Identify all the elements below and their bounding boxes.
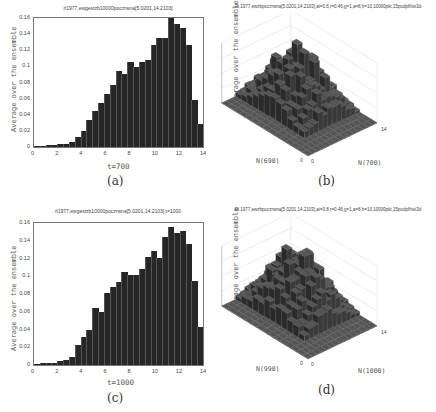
y-tick-label: 0.1 — [22, 272, 30, 278]
chart-title: rl1977,ewgestzb10000poczrwna[5.0201,14.2… — [33, 208, 203, 214]
x-tick-label: 12 — [176, 368, 182, 374]
x-tick-label: 10 — [152, 368, 158, 374]
y-tick-label: 0.08 — [19, 290, 30, 296]
y-tick-label: 0.02 — [19, 127, 30, 133]
histogram-bar — [197, 327, 203, 365]
y-tick-label: 0.14 — [19, 237, 30, 243]
y-tick-label: 0.14 — [19, 30, 30, 36]
y-axis-label: N(690) — [256, 157, 279, 165]
chart-title: Rl,1977,ewzbpoczrwna[5.0201,14.2103],ai=… — [220, 207, 436, 212]
x-tick-label: 4 — [79, 368, 82, 374]
panel-a: rl1977,ewgestzb10000poczrwna[5.0201,14.2… — [0, 0, 218, 200]
caption-a: (a) — [107, 174, 124, 188]
x-axis-label: N(1000) — [358, 367, 385, 375]
svg-text:0: 0 — [311, 361, 314, 367]
svg-text:0: 0 — [300, 157, 303, 163]
x-tick-label: 10 — [152, 150, 158, 156]
x-tick-label: 6 — [103, 368, 106, 374]
caption-d: (d) — [318, 383, 335, 397]
x-axis-label: t=700 — [107, 162, 130, 171]
x-axis-label: t=1000 — [107, 378, 134, 387]
plot-area: 00.020.040.060.080.10.120.140.1602468101… — [33, 17, 204, 148]
y-tick-label: 0.06 — [19, 308, 30, 314]
x-tick-label: 2 — [55, 368, 58, 374]
histogram-bar — [197, 124, 203, 147]
svg-text:14: 14 — [381, 126, 387, 132]
x-tick-label: 2 — [55, 150, 58, 156]
y-axis-label: N(990) — [256, 365, 279, 373]
y-tick-label: 0.04 — [19, 111, 30, 117]
x-tick-label: 12 — [176, 150, 182, 156]
y-axis-label: Average over the ensemble — [10, 246, 18, 351]
y-tick-label: 0.16 — [19, 219, 30, 225]
y-axis-label: Average over the ensemble — [10, 27, 18, 132]
chart-title: rl1977,ewgestzb10000poczrwna[5.0201,14.2… — [33, 5, 203, 11]
x-tick-label: 14 — [200, 150, 206, 156]
plot-area: 00.020.040.060.080.10.120.140.1602468101… — [33, 222, 204, 366]
x-tick-label: 8 — [128, 150, 131, 156]
y-tick-label: 0.12 — [19, 255, 30, 261]
y-tick-label: 0 — [27, 361, 30, 367]
x-tick-label: 0 — [31, 150, 34, 156]
y-tick-label: 0.12 — [19, 46, 30, 52]
panel-c: rl1977,ewgestzb10000poczrwna[5.0201,14.2… — [0, 203, 218, 412]
y-tick-label: 0.16 — [19, 14, 30, 20]
y-tick-label: 0.02 — [19, 343, 30, 349]
caption-b: (b) — [318, 174, 335, 188]
x-tick-label: 8 — [128, 368, 131, 374]
x-axis-label: N(700) — [358, 159, 381, 167]
svg-text:0: 0 — [311, 158, 314, 164]
y-tick-label: 0.04 — [19, 326, 30, 332]
y-tick-label: 0 — [27, 143, 30, 149]
z-axis-label: Average over the ensemble — [232, 208, 240, 313]
x-tick-label: 4 — [79, 150, 82, 156]
chart-title: Rl,1977,ewzbpoczrwna[5.0201,14.2103],ai=… — [220, 4, 436, 9]
caption-c: (c) — [107, 391, 123, 405]
panel-d: Rl,1977,ewzbpoczrwna[5.0201,14.2103],ai=… — [220, 203, 436, 412]
x-tick-label: 14 — [200, 368, 206, 374]
bar3d-plot: 02468141400 — [220, 217, 436, 382]
x-tick-label: 6 — [103, 150, 106, 156]
panel-b: Rl,1977,ewzbpoczrwna[5.0201,14.2103],ai=… — [220, 0, 436, 200]
z-axis-label: Average over the ensemble — [232, 1, 240, 106]
y-tick-label: 0.1 — [22, 62, 30, 68]
svg-text:0: 0 — [300, 360, 303, 366]
bar3d-plot: 02468141400 — [220, 14, 436, 174]
x-tick-label: 0 — [31, 368, 34, 374]
y-tick-label: 0.06 — [19, 95, 30, 101]
y-tick-label: 0.08 — [19, 79, 30, 85]
svg-text:14: 14 — [381, 329, 387, 335]
